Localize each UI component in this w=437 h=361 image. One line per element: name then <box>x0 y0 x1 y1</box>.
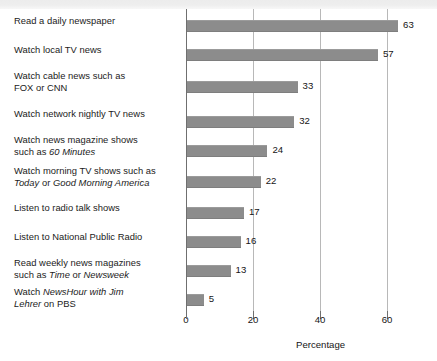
label-text: Watch news magazine shows <box>14 134 138 145</box>
x-tick-label-40: 40 <box>308 314 332 325</box>
label-title-italic: 60 Minutes <box>49 146 95 157</box>
bar <box>187 176 261 188</box>
category-label: Listen to radio talk shows <box>14 202 186 214</box>
label-text: Listen to radio talk shows <box>14 202 120 213</box>
category-label: Read a daily newspaper <box>14 15 186 27</box>
category-label: Listen to National Public Radio <box>14 231 186 243</box>
bar <box>187 145 267 157</box>
label-text: such as <box>14 269 49 280</box>
bar <box>187 294 204 306</box>
plot-area: 6357333224221716135 <box>186 9 391 311</box>
label-title-italic: NewsHour with Jim <box>43 286 124 297</box>
label-text: on PBS <box>41 298 76 309</box>
x-axis-title: Percentage <box>296 339 345 350</box>
bar <box>187 116 294 128</box>
category-label: Watch cable news such asFOX or CNN <box>14 70 186 93</box>
bar-value-label: 57 <box>383 48 394 60</box>
label-text: Watch network nightly TV news <box>14 108 145 119</box>
label-title-italic: Newsweek <box>84 269 130 280</box>
bar <box>187 207 244 219</box>
label-text: Watch morning TV shows such as <box>14 165 156 176</box>
scan-edge-band <box>0 0 437 9</box>
label-title-italic: Good Morning America <box>53 177 149 188</box>
bar-value-label: 63 <box>403 19 414 31</box>
category-label: Watch morning TV shows such asToday or G… <box>14 165 186 188</box>
label-text: Read a daily newspaper <box>14 15 115 26</box>
bar-value-label: 33 <box>303 80 314 92</box>
category-label: Read weekly news magazinessuch as Time o… <box>14 257 186 280</box>
label-title-italic: Today <box>14 177 39 188</box>
category-label: Watch local TV news <box>14 44 186 56</box>
bar <box>187 236 241 248</box>
x-tick-mark-0 <box>186 311 187 319</box>
category-label: Watch NewsHour with JimLehrer on PBS <box>14 286 186 309</box>
horizontal-bar-chart: Read a daily newspaperWatch local TV new… <box>0 9 437 361</box>
bar <box>187 265 231 277</box>
label-title-italic: Lehrer <box>14 298 41 309</box>
bar-value-label: 13 <box>236 264 247 276</box>
x-tick-label-20: 20 <box>241 314 265 325</box>
category-label-column: Read a daily newspaperWatch local TV new… <box>14 9 184 309</box>
label-text: Watch local TV news <box>14 44 101 55</box>
bar-value-label: 17 <box>249 206 260 218</box>
bar-value-label: 24 <box>272 144 283 156</box>
label-text: Read weekly news magazines <box>14 257 141 268</box>
bar-value-label: 32 <box>299 115 310 127</box>
bar <box>187 20 398 32</box>
bar-value-label: 5 <box>209 293 214 305</box>
label-text: such as <box>14 146 49 157</box>
label-text: or <box>39 177 53 188</box>
chart-screenshot: Read a daily newspaperWatch local TV new… <box>0 0 437 361</box>
category-label: Watch network nightly TV news <box>14 108 186 120</box>
label-text: or <box>70 269 84 280</box>
label-text: Listen to National Public Radio <box>14 231 142 242</box>
bar <box>187 49 378 61</box>
x-tick-label-60: 60 <box>375 314 399 325</box>
label-text: Watch <box>14 286 43 297</box>
category-label: Watch news magazine showssuch as 60 Minu… <box>14 134 186 157</box>
label-title-italic: Time <box>49 269 70 280</box>
label-text: FOX or CNN <box>14 82 67 93</box>
bar-value-label: 16 <box>246 235 257 247</box>
label-text: Watch cable news such as <box>14 70 125 81</box>
bar <box>187 81 298 93</box>
bar-value-label: 22 <box>266 175 277 187</box>
